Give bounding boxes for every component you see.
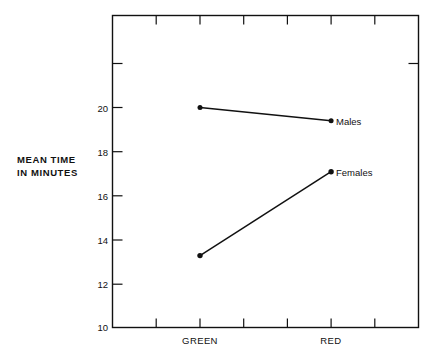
y-tick-label-16: 16 [80,190,108,201]
series-females [197,169,333,258]
bottom-axis-ticks [156,319,375,328]
y-axis-title-line-2: IN MINUTES [17,167,78,178]
series-label-females: Females [336,167,372,178]
y-tick-label-18: 18 [80,146,108,157]
x-tick-label-red: RED [296,335,366,346]
x-tick-label-green: GREEN [165,335,235,346]
series-males-point-red [329,118,334,123]
y-axis-title-line-1: MEAN TIME [17,154,76,165]
series-females-point-red [328,169,333,174]
y-tick-label-20: 20 [80,102,108,113]
chart-canvas [0,0,433,360]
series-males-point-green [198,105,203,110]
top-axis-ticks [156,16,375,25]
left-axis-ticks [113,64,123,285]
series-females-line [200,172,331,256]
series-label-males: Males [336,116,361,127]
plot-frame [113,16,419,328]
series-males-line [200,108,331,121]
series-females-point-green [197,253,202,258]
line-chart-figure: MEAN TIMEIN MINUTES 20 18 16 14 12 10 GR… [0,0,433,360]
y-tick-label-10: 10 [80,321,108,332]
y-tick-label-12: 12 [80,279,108,290]
y-tick-label-14: 14 [80,235,108,246]
series-males [198,105,334,123]
